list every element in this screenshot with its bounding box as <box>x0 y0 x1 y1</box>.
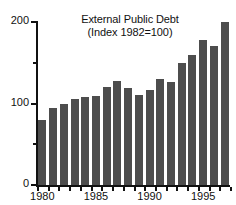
x-axis-tick-label: 1990 <box>137 190 161 202</box>
x-axis-tick <box>69 187 71 191</box>
x-axis-tick-label: 1985 <box>84 190 108 202</box>
x-axis-tick <box>187 187 189 191</box>
bar-slot <box>58 22 69 185</box>
bar <box>71 99 79 185</box>
x-axis-tick <box>80 187 82 191</box>
bar <box>92 96 100 185</box>
bar-slot <box>219 22 230 185</box>
bar-series <box>37 22 230 185</box>
bar <box>49 108 57 185</box>
x-axis-tick <box>123 187 125 191</box>
x-axis-tick <box>58 187 60 191</box>
x-axis-tick-label: 1980 <box>30 190 54 202</box>
x-axis-tick <box>112 187 114 191</box>
plot-area <box>37 22 230 185</box>
bar-slot <box>155 22 166 185</box>
bar <box>60 104 68 186</box>
bar-slot <box>37 22 48 185</box>
x-axis-tick <box>176 187 178 191</box>
bar <box>81 97 89 185</box>
y-axis-tick-labels: 0100200 <box>0 0 29 205</box>
bar-slot <box>209 22 220 185</box>
bar-slot <box>198 22 209 185</box>
bar-slot <box>80 22 91 185</box>
bar-slot <box>91 22 102 185</box>
x-axis-tick-label: 1995 <box>191 190 215 202</box>
bar-slot <box>69 22 80 185</box>
y-axis-minor-tick <box>33 62 37 64</box>
y-axis-tick <box>31 21 36 23</box>
bar <box>178 63 186 185</box>
bar <box>199 40 207 185</box>
y-axis-tick <box>31 103 36 105</box>
y-axis-tick-label: 0 <box>23 177 29 189</box>
bar <box>156 79 164 185</box>
bar-slot <box>48 22 59 185</box>
bar-slot <box>166 22 177 185</box>
y-axis-tick <box>31 184 36 186</box>
bar <box>113 81 121 185</box>
bar <box>167 82 175 186</box>
y-axis-minor-tick <box>33 143 37 145</box>
x-axis-tick <box>219 187 221 191</box>
bar <box>103 87 111 185</box>
y-axis-tick-label: 100 <box>11 96 29 108</box>
x-axis-tick <box>134 187 136 191</box>
bar-slot <box>133 22 144 185</box>
bar-slot <box>187 22 198 185</box>
bar <box>135 95 143 185</box>
x-axis-tick <box>166 187 168 191</box>
bar <box>124 88 132 185</box>
bar <box>146 90 154 185</box>
bar-slot <box>123 22 134 185</box>
bar <box>188 55 196 185</box>
bar <box>221 22 229 185</box>
chart-figure: External Public Debt (Index 1982=100) 01… <box>0 0 236 205</box>
x-axis-tick <box>230 187 232 191</box>
bar <box>38 120 46 185</box>
y-axis-tick-label: 200 <box>11 14 29 26</box>
bar <box>210 46 218 185</box>
bar-slot <box>112 22 123 185</box>
bar-slot <box>144 22 155 185</box>
bar-slot <box>176 22 187 185</box>
bar-slot <box>101 22 112 185</box>
